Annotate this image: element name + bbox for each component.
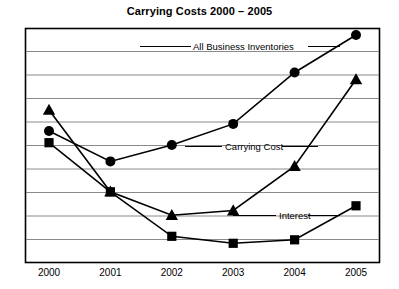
data-point-circle (290, 68, 300, 78)
data-point-square (106, 187, 115, 196)
x-tick-2002: 2002 (150, 267, 194, 279)
x-tick-2004: 2004 (273, 267, 317, 279)
data-point-circle (351, 30, 361, 40)
data-point-circle (167, 140, 177, 150)
data-point-square (290, 235, 299, 244)
data-point-circle (105, 156, 115, 166)
x-tick-2001: 2001 (88, 267, 132, 279)
data-point-square (351, 201, 360, 210)
chart-container: Carrying Costs 2000 – 2005 A (0, 0, 399, 289)
data-point-square (167, 232, 176, 241)
x-tick-2003: 2003 (211, 267, 255, 279)
series-label-interest: Interest (279, 210, 311, 221)
data-point-square (229, 239, 238, 248)
data-point-circle (44, 126, 54, 136)
series-label-all-business-inventories: All Business Inventories (193, 41, 294, 52)
x-tick-2005: 2005 (334, 267, 378, 279)
series-label-carrying-cost: Carrying Cost (225, 141, 283, 152)
data-point-square (44, 138, 53, 147)
data-point-circle (228, 119, 238, 129)
x-tick-2000: 2000 (27, 267, 71, 279)
